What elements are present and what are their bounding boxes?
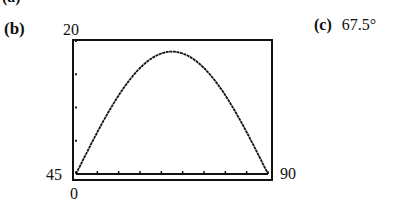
y-tick — [75, 107, 77, 109]
y-tick — [75, 40, 77, 42]
y-tick — [75, 73, 77, 75]
window-frame — [73, 40, 272, 180]
curve-line — [76, 52, 268, 174]
calculator-graph — [0, 0, 399, 201]
y-tick — [75, 140, 77, 142]
